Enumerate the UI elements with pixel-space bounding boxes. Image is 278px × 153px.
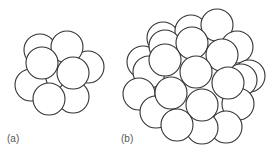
sphere: [57, 57, 89, 89]
sphere: [180, 56, 212, 88]
panel-label-b: (b): [121, 133, 133, 144]
panel-label-a: (a): [7, 133, 19, 144]
sphere: [26, 47, 58, 79]
sphere: [176, 27, 208, 59]
sphere: [212, 67, 244, 99]
sphere-cluster-figure: (a) (b): [0, 0, 278, 153]
cluster-a: [15, 31, 104, 115]
sphere: [155, 77, 187, 109]
sphere: [161, 109, 193, 141]
sphere: [33, 83, 65, 115]
sphere: [149, 44, 181, 76]
cluster-b: [123, 9, 265, 144]
